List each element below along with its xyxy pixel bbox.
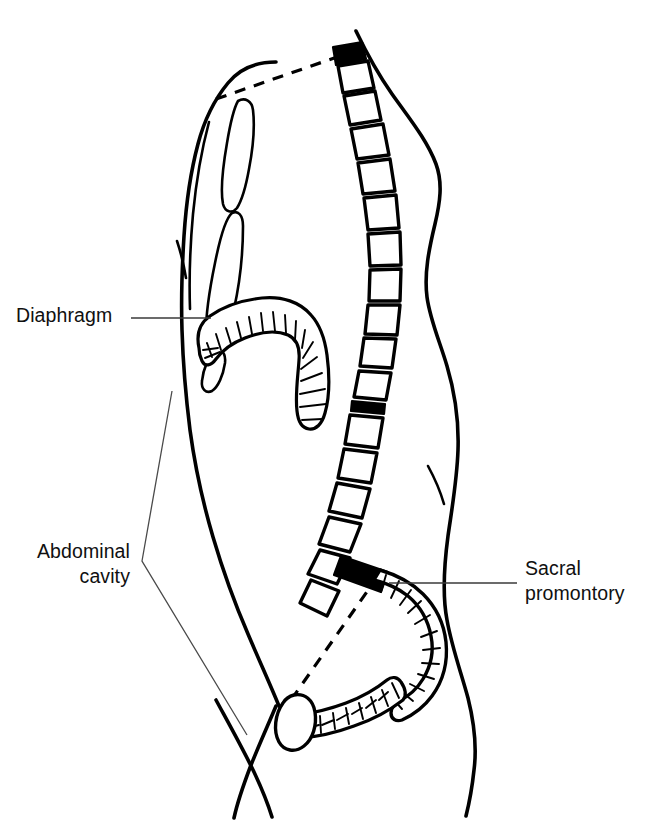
- vertebra-block: [300, 580, 339, 616]
- intervertebral-disc-marked: [351, 401, 385, 414]
- anatomy-diagram-svg: [0, 0, 652, 830]
- vertebra-block: [338, 61, 374, 93]
- vertebra-block: [358, 159, 395, 194]
- posterior-waist-notch: [428, 466, 444, 504]
- vertebra-block: [360, 338, 396, 368]
- vertebra-block: [364, 195, 399, 230]
- manubrium: [222, 99, 254, 211]
- vertebra-block: [338, 449, 377, 483]
- anatomy-figure: Diaphragm Abdominal cavity Sacral promon…: [0, 0, 652, 830]
- vertebra-block: [319, 517, 361, 552]
- vertebra-block: [344, 91, 381, 125]
- vertebra-block: [329, 483, 370, 518]
- vertebra-block: [351, 124, 389, 159]
- abdominal-cavity-leader-line: [142, 391, 247, 735]
- vertebra-block: [369, 269, 401, 301]
- pubic-symphysis: [276, 695, 316, 751]
- vertebra-block: [345, 415, 383, 448]
- vertebra-block: [368, 232, 401, 266]
- thigh-anterior-line: [216, 700, 272, 817]
- vertebra-block: [365, 305, 400, 335]
- anterior-inner-chest-line: [190, 122, 209, 309]
- label-diaphragm: Diaphragm: [16, 303, 112, 328]
- label-abdominal-cavity: Abdominal cavity: [18, 539, 130, 589]
- label-sacral-promontory: Sacral promontory: [525, 556, 625, 606]
- vertebra-block: [354, 371, 391, 400]
